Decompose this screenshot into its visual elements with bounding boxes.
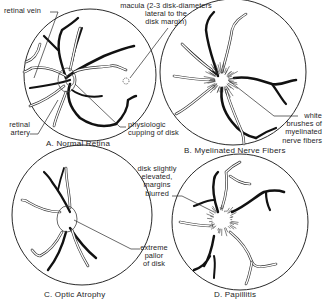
panel-d-fundus-outline [172,154,308,290]
panel-d-veins [180,162,276,284]
blurred-margin-stroke [209,212,214,215]
macula-label: macula (2-3 disk-diameters lateral to th… [104,2,228,27]
disk-elevated-label: disk slightly elevated, margins blurred [128,165,186,198]
blurred-margin-stroke [230,217,233,218]
panel-d-caption: D. Papillitis [214,290,256,299]
retinal-artery-label: retinal artery [0,121,30,137]
panel-c-arteries [44,168,96,270]
myelin-brush-stroke [217,87,219,92]
blurred-margin-stroke [219,229,220,234]
extreme-pallor-label: extreme pallor of disk [132,244,176,269]
panel-c-veins [22,168,88,266]
blurred-margin-stroke [227,208,229,212]
myelin-brush-stroke [228,71,238,76]
panel-a-caption: A. Normal Retina [46,139,110,148]
physiologic-cupping-label: physiologic cupping of disk [128,121,179,137]
panel-a-arteries [30,18,136,126]
panel-d-papillitis [172,154,308,290]
blurred-margin-stroke [225,210,226,212]
panel-c-pale-optic-disk [57,206,77,232]
panel-b-caption: B. Myelinated Nerve Fibers [184,146,286,155]
panel-a-macula [123,78,129,84]
retinal-vein-label: retinal vein [4,7,41,15]
white-brushes-leader [228,80,298,116]
blurred-margin-stroke [214,212,215,213]
blurred-margin-stroke [218,228,219,230]
blurred-margin-stroke [228,226,230,228]
disk-elevated-leader [172,196,214,212]
blurred-margin-stroke [226,211,227,212]
blurred-margin-stroke [231,221,238,222]
white-brushes-label: white brushes of myelinated nerve fibers [270,112,322,145]
myelin-brush-stroke [204,76,215,78]
blurred-margin-stroke [211,223,213,224]
blurred-margin-stroke [207,218,212,219]
panel-c-caption: C. Optic Atrophy [44,290,105,299]
blurred-margin-stroke [225,227,227,232]
